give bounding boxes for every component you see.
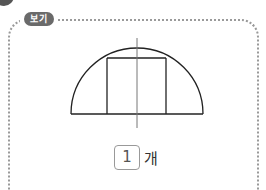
answer-box[interactable]: 1 xyxy=(114,145,140,170)
answer-unit: 개 xyxy=(144,147,158,168)
